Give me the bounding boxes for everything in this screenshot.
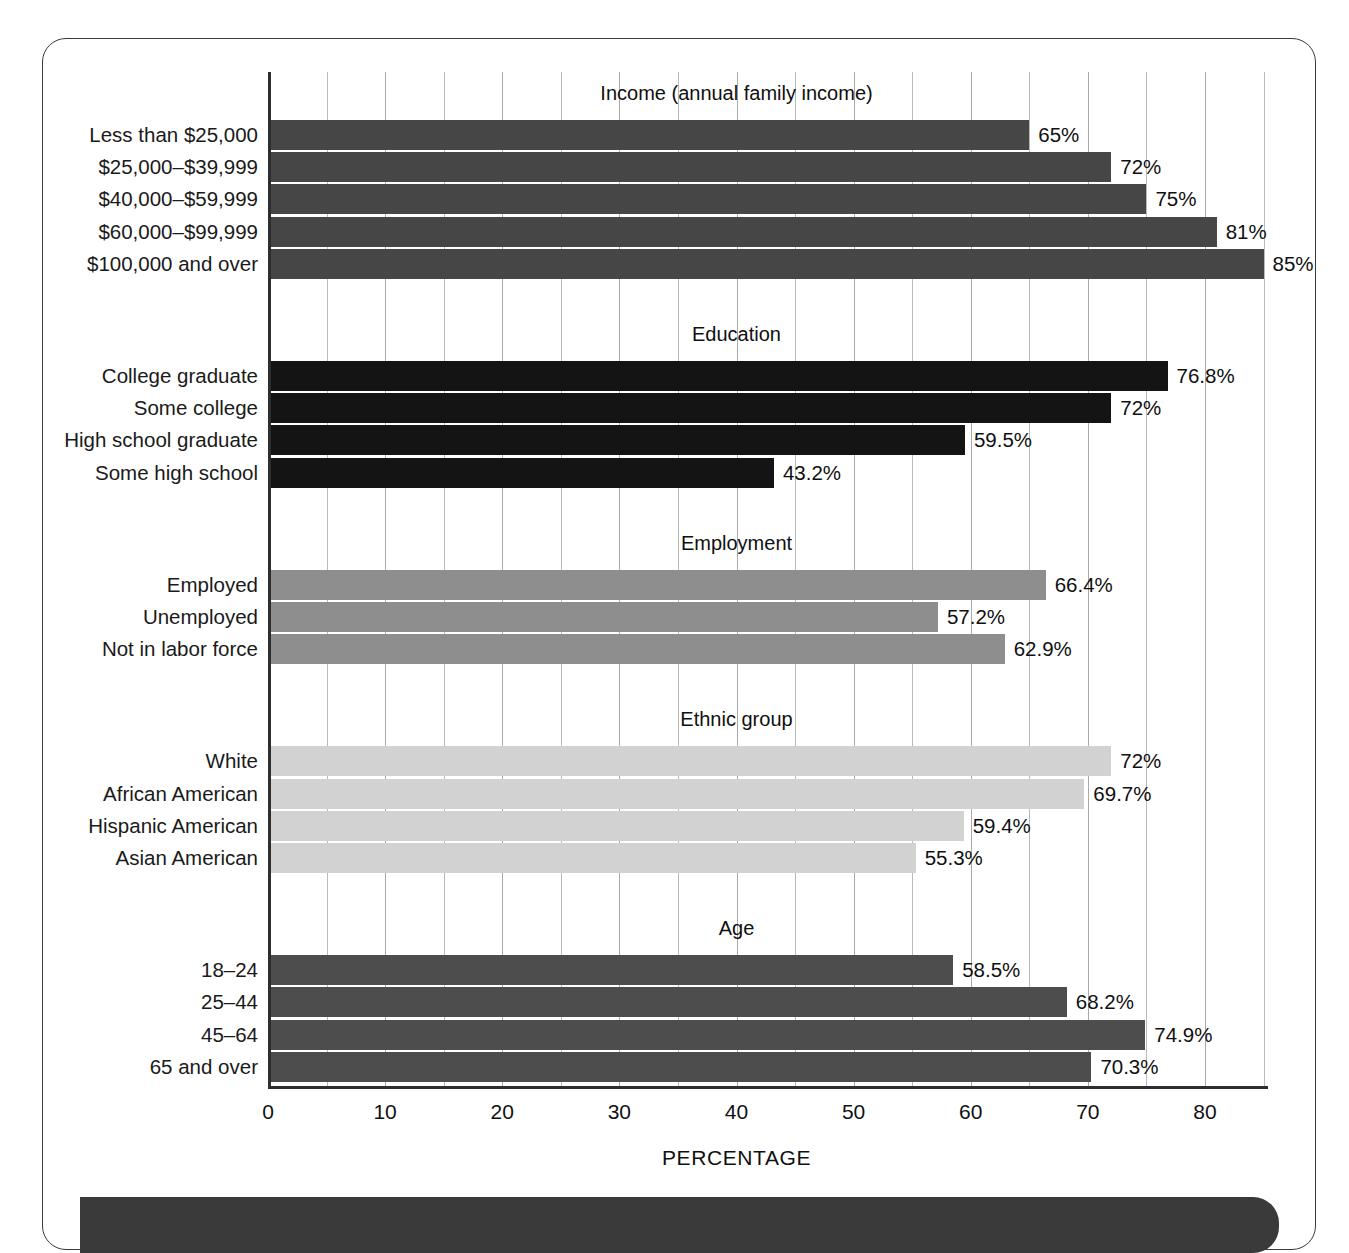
x-tick-70: 70 [1076, 1100, 1099, 1124]
bar [268, 249, 1264, 279]
x-axis-title: PERCENTAGE [268, 1146, 1205, 1170]
bar [268, 955, 953, 985]
bar-value-label: 59.5% [974, 428, 1032, 452]
category-label: $40,000–$59,999 [0, 187, 258, 211]
bar-value-label: 81% [1226, 220, 1267, 244]
category-label: African American [0, 782, 258, 806]
bar-value-label: 57.2% [947, 605, 1005, 629]
bar-value-label: 85% [1273, 252, 1314, 276]
bar-value-label: 66.4% [1055, 573, 1113, 597]
bar [268, 779, 1084, 809]
bar [268, 120, 1029, 150]
category-label: White [0, 749, 258, 773]
category-label: Asian American [0, 846, 258, 870]
category-label: 18–24 [0, 958, 258, 982]
bar-value-label: 65% [1038, 123, 1079, 147]
category-label: High school graduate [0, 428, 258, 452]
group-title-education: Education [268, 323, 1205, 346]
group-title-ethnic-group: Ethnic group [268, 708, 1205, 731]
bar-value-label: 55.3% [925, 846, 983, 870]
bar-value-label: 70.3% [1100, 1055, 1158, 1079]
bar [268, 152, 1111, 182]
bar [268, 458, 774, 488]
bar-value-label: 76.8% [1177, 364, 1235, 388]
x-tick-60: 60 [959, 1100, 982, 1124]
category-label: Not in labor force [0, 637, 258, 661]
bar [268, 1020, 1145, 1050]
y-axis-line [268, 72, 271, 1086]
bar [268, 843, 916, 873]
bar-value-label: 69.7% [1093, 782, 1151, 806]
bar-value-label: 72% [1120, 749, 1161, 773]
bar [268, 811, 964, 841]
x-tick-0: 0 [262, 1100, 274, 1124]
category-label: Unemployed [0, 605, 258, 629]
bar-value-label: 72% [1120, 155, 1161, 179]
category-label: Some high school [0, 461, 258, 485]
category-label: Hispanic American [0, 814, 258, 838]
category-label: Less than $25,000 [0, 123, 258, 147]
category-label: 65 and over [0, 1055, 258, 1079]
bar-value-label: 62.9% [1014, 637, 1072, 661]
x-tick-80: 80 [1193, 1100, 1216, 1124]
category-label: College graduate [0, 364, 258, 388]
bottom-caption-band [80, 1197, 1279, 1253]
category-label: Employed [0, 573, 258, 597]
x-tick-30: 30 [608, 1100, 631, 1124]
group-title-employment: Employment [268, 532, 1205, 555]
bar-value-label: 59.4% [973, 814, 1031, 838]
bar [268, 634, 1005, 664]
bar [268, 184, 1146, 214]
bar-value-label: 58.5% [962, 958, 1020, 982]
bar [268, 393, 1111, 423]
bar [268, 425, 965, 455]
group-title-income: Income (annual family income) [268, 82, 1205, 105]
x-tick-50: 50 [842, 1100, 865, 1124]
bar-value-label: 72% [1120, 396, 1161, 420]
x-tick-40: 40 [725, 1100, 748, 1124]
x-tick-10: 10 [373, 1100, 396, 1124]
category-label: Some college [0, 396, 258, 420]
x-axis-line [268, 1086, 1268, 1089]
category-label: $100,000 and over [0, 252, 258, 276]
bar [268, 570, 1046, 600]
bar [268, 361, 1168, 391]
bar [268, 1052, 1091, 1082]
bar-value-label: 43.2% [783, 461, 841, 485]
bar [268, 602, 938, 632]
group-title-age: Age [268, 917, 1205, 940]
bar-value-label: 75% [1155, 187, 1196, 211]
category-label: 25–44 [0, 990, 258, 1014]
bar-value-label: 68.2% [1076, 990, 1134, 1014]
category-label: $60,000–$99,999 [0, 220, 258, 244]
bar [268, 746, 1111, 776]
category-label: $25,000–$39,999 [0, 155, 258, 179]
x-tick-20: 20 [491, 1100, 514, 1124]
bar-value-label: 74.9% [1154, 1023, 1212, 1047]
bar [268, 987, 1067, 1017]
plot-area: Income (annual family income)65%72%75%81… [268, 72, 1205, 1086]
bar [268, 217, 1217, 247]
category-label: 45–64 [0, 1023, 258, 1047]
